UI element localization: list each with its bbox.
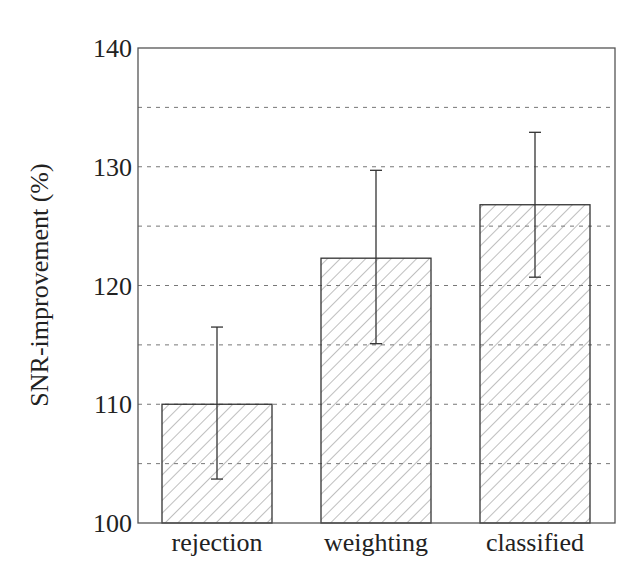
x-axis-labels: rejectionweightingclassified — [172, 528, 585, 557]
y-axis-label: SNR-improvement (%) — [25, 163, 54, 406]
y-axis-ticks: 100110120130140 — [93, 34, 132, 538]
x-category-label: rejection — [172, 528, 263, 557]
y-tick-label: 100 — [93, 509, 132, 538]
y-tick-label: 110 — [94, 390, 132, 419]
bars — [162, 132, 590, 523]
bar-chart: 100110120130140 rejectionweightingclassi… — [0, 0, 637, 580]
y-tick-label: 120 — [93, 272, 132, 301]
x-category-label: classified — [486, 528, 584, 557]
y-tick-label: 140 — [93, 34, 132, 63]
y-tick-label: 130 — [93, 153, 132, 182]
x-category-label: weighting — [324, 528, 428, 557]
